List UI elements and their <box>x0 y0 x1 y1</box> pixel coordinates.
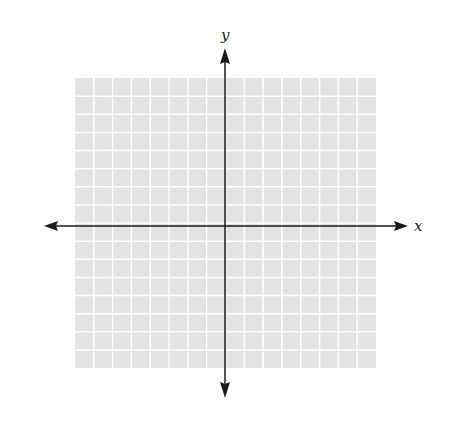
y-axis-up-arrow-icon <box>220 48 230 64</box>
coordinate-plane: x y <box>0 0 449 430</box>
x-axis-right-arrow-icon <box>394 221 408 231</box>
y-axis-label: y <box>220 26 230 44</box>
x-axis-label: x <box>414 217 423 235</box>
x-axis-left-arrow-icon <box>44 221 58 231</box>
y-axis-down-arrow-icon <box>220 382 230 398</box>
